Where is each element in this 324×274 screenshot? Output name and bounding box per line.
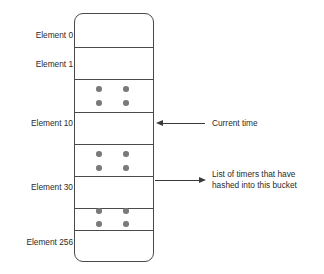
bucket-divider xyxy=(74,47,154,48)
bucket-label-element-10: Element 10 xyxy=(31,118,73,128)
arrow-left-icon xyxy=(156,120,163,126)
bucket-divider xyxy=(74,208,154,209)
current-time-leader-line xyxy=(163,123,205,124)
timer-dot xyxy=(96,208,102,214)
timer-dot xyxy=(123,100,129,106)
timer-list-leader-line xyxy=(155,180,199,181)
timer-dot xyxy=(96,100,102,106)
current-time-label: Current time xyxy=(212,118,258,129)
timer-dot xyxy=(96,165,102,171)
bucket-label-element-1: Element 1 xyxy=(36,59,73,69)
timer-dot xyxy=(96,151,102,157)
bucket-label-element-0: Element 0 xyxy=(36,30,73,40)
bucket-label-element-30: Element 30 xyxy=(31,182,73,192)
timer-dot xyxy=(123,208,129,214)
bucket-divider xyxy=(74,79,154,80)
timer-dot xyxy=(96,221,102,227)
bucket-label-element-256: Element 256 xyxy=(26,237,73,247)
arrow-right-icon xyxy=(199,177,206,183)
timer-dot xyxy=(123,165,129,171)
timer-dot xyxy=(96,86,102,92)
bucket-array-outline xyxy=(74,13,154,262)
timer-dot xyxy=(123,221,129,227)
timer-list-label-line1: List of timers that have xyxy=(212,169,295,180)
bucket-divider xyxy=(74,176,154,177)
bucket-divider xyxy=(74,112,154,113)
timer-list-label-line2: hashed into this bucket xyxy=(212,180,297,191)
timer-dot xyxy=(123,86,129,92)
bucket-divider xyxy=(74,144,154,145)
bucket-divider xyxy=(74,230,154,231)
timer-dot xyxy=(123,151,129,157)
timer-wheel-diagram: Element 0 Element 1 Element 10 Element 3… xyxy=(0,0,324,274)
